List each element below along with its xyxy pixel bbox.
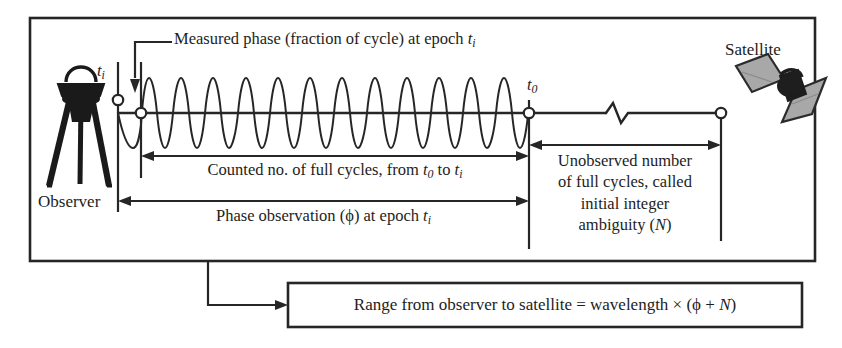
phase-observation-arrowhead-right-icon — [516, 196, 529, 206]
connector-arrowhead-icon — [275, 300, 288, 310]
unobserved-arrowhead-left-icon — [529, 140, 542, 150]
satellite-icon — [736, 54, 826, 122]
observer-label-text: Observer — [38, 192, 100, 211]
phase-observation-arrowhead-left-icon — [118, 196, 131, 206]
observer-label: Observer — [38, 192, 100, 211]
measured-phase-label: Measured phase (fraction of cycle) at ep… — [174, 30, 476, 50]
counted-cycles-text-part-2: to — [433, 160, 454, 179]
diagram-canvas: Measured phase (fraction of cycle) at ep… — [0, 0, 842, 348]
counted-cycles-text-part-1: Counted no. of full cycles, from — [208, 160, 423, 179]
formula-var-N: N — [719, 295, 730, 314]
node-marker-t-i — [113, 95, 123, 105]
measured-phase-text-part-1: Measured phase (fraction of cycle) at ep… — [174, 29, 468, 48]
observer-antenna-icon — [47, 67, 112, 186]
counted-cycles-arrowhead-left-icon — [141, 151, 154, 161]
formula-text-part-2: ) — [731, 295, 737, 314]
unobserved-line-2: of full cycles, called — [529, 171, 721, 192]
epoch-t0-sub: 0 — [532, 82, 538, 96]
counted-cycles-label: Counted no. of full cycles, from t0 to t… — [141, 161, 529, 181]
node-marker-satellite — [716, 108, 726, 118]
epoch-ti-label: ti — [97, 62, 105, 82]
satellite-label: Satellite — [725, 40, 781, 59]
unobserved-line-4-part-2: ) — [666, 215, 672, 234]
unobserved-ambiguity-var-N: N — [655, 215, 666, 234]
connector-to-formula-box — [208, 261, 277, 305]
unobserved-line-4: ambiguity (N) — [529, 214, 721, 235]
formula-text: Range from observer to satellite = wavel… — [288, 295, 802, 314]
phase-observation-sub-i: i — [428, 213, 431, 227]
epoch-ti-sub: i — [102, 68, 105, 82]
unobserved-arrowhead-right-icon — [708, 140, 721, 150]
range-baseline — [118, 103, 721, 123]
node-marker-phase-start — [136, 108, 146, 118]
counted-cycles-arrowhead-right-icon — [516, 151, 529, 161]
unobserved-line-1: Unobserved number — [529, 150, 721, 171]
unobserved-line-3: initial integer — [529, 193, 721, 214]
measured-phase-arrowhead-icon — [130, 79, 140, 93]
satellite-label-text: Satellite — [725, 40, 781, 59]
phase-observation-label: Phase observation (ϕ) at epoch ti — [118, 207, 529, 227]
measured-phase-epoch-sub: i — [472, 36, 475, 50]
node-marker-t-0 — [524, 108, 534, 118]
phase-observation-text-part-1: Phase observation (ϕ) at epoch — [216, 206, 423, 225]
unobserved-ambiguity-label: Unobserved number of full cycles, called… — [529, 150, 721, 236]
unobserved-line-4-part-1: ambiguity ( — [578, 215, 655, 234]
counted-cycles-sub-i: i — [459, 167, 462, 181]
formula-text-part-1: Range from observer to satellite = wavel… — [354, 295, 719, 314]
epoch-t0-label: t0 — [527, 76, 538, 96]
